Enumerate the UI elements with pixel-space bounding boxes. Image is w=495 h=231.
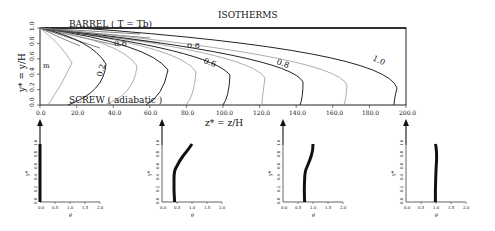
tick-label: 1.0 [28,21,35,31]
theta-label: θ [312,212,315,218]
profile-panel-1: 0.0 0.5 1.0 1.5 2.0 θ 0.0 0.2 0.4 0.6 0.… [24,126,104,218]
x-axis: 0.0 20.0 40.0 60.0 80.0 100.0 120.0 140.… [36,105,416,128]
tick-label: 0.0 [155,197,160,204]
tick-label: 0.8 [276,150,281,157]
theta-profile-curve [174,144,192,202]
tick-label: 0.2 [276,185,281,192]
tick-label: 0.8 [28,36,35,46]
tick-label: 1.0 [399,139,404,146]
tick-label: 0.4 [33,173,38,180]
tick-label: 0.4 [155,173,160,180]
tick-label: 1.0 [189,205,196,210]
tick-label: 20.0 [71,109,85,116]
x-axis-label: z* = z/H [205,118,243,128]
tick-label: 200.0 [399,109,416,116]
tick-label: 1.0 [155,139,160,146]
tick-label: 0.6 [155,162,160,169]
tick-label: 0.0 [36,109,46,116]
tick-label: 1.5 [448,205,455,210]
tick-label: 0.5 [174,205,181,210]
tick-label: 2.0 [463,205,470,210]
tick-label: 0.2 [399,185,404,192]
tick-label: 0.5 [52,205,59,210]
tick-label: 60.0 [144,109,158,116]
isotherm-plot: ISOTHERMS BARREL ( T = Tb) 0.2 [17,10,416,128]
tick-label: 0.6 [28,51,35,61]
tick-label: 0.4 [399,173,404,180]
theta-label: θ [435,212,438,218]
tick-label: 0.0 [281,205,288,210]
tick-label: 0.2 [33,185,38,192]
y-axis-label: y* = y/H [17,53,27,93]
tick-label: 0.0 [276,197,281,204]
isotherm-curves [40,28,397,105]
chart-title: ISOTHERMS [218,10,278,20]
contour-label-0.2: 0.2 [95,63,107,78]
tick-label: 0.4 [28,67,35,77]
profile-panel-4: 0.0 0.5 1.0 1.5 2.0 θ 0.0 0.2 0.4 0.6 0.… [390,126,470,218]
tick-label: 120.0 [253,109,270,116]
tick-label: 2.0 [340,205,347,210]
tick-label: 0.0 [28,97,35,107]
tick-label: 1.5 [82,205,89,210]
tick-label: 2.0 [97,205,104,210]
profile-panel-2: 0.0 0.5 1.0 1.5 2.0 θ 0.0 0.2 0.4 0.6 0.… [146,126,226,218]
tick-label: 0.2 [28,82,35,92]
contour-label-0.6b: 0.6 [202,56,217,69]
ystar-label: y* [146,170,153,177]
tick-label: 0.8 [33,150,38,157]
tick-label: 0.2 [155,185,160,192]
tick-label: 0.0 [160,205,167,210]
theta-label: θ [191,212,194,218]
m-label: m [43,62,50,70]
tick-label: 180.0 [362,109,379,116]
theta-label: θ [69,212,72,218]
tick-label: 0.5 [295,205,302,210]
contour-label-0.6a: 0.6 [114,39,127,48]
tick-label: 40.0 [108,109,122,116]
ystar-label: y* [24,170,31,177]
tick-label: 0.4 [276,173,281,180]
tick-label: 0.0 [33,197,38,204]
contour-label-0.8b: 0.8 [275,57,290,70]
tick-label: 2.0 [219,205,226,210]
tick-label: 0.0 [399,197,404,204]
tick-label: 80.0 [181,109,195,116]
tick-label: 1.0 [433,205,440,210]
tick-label: 1.0 [310,205,317,210]
theta-profile-curve [304,144,313,202]
tick-label: 0.8 [399,150,404,157]
tick-label: 1.0 [33,139,38,146]
tick-label: 100.0 [216,109,233,116]
tick-label: 0.6 [276,162,281,169]
tick-label: 1.5 [204,205,211,210]
tick-label: 1.5 [325,205,332,210]
tick-label: 160.0 [326,109,343,116]
ystar-label: y* [267,170,274,177]
tick-label: 140.0 [289,109,306,116]
tick-label: 0.5 [418,205,425,210]
tick-label: 1.0 [276,139,281,146]
tick-label: 1.0 [67,205,74,210]
tick-label: 0.0 [404,205,411,210]
contour-label-1.0: 1.0 [371,54,386,68]
contour-label-0.8a: 0.8 [187,41,200,50]
theta-profile-curve [435,144,436,202]
plot-frame [40,28,406,105]
figure: ISOTHERMS BARREL ( T = Tb) 0.2 [0,0,495,231]
profile-panel-3: 0.0 0.5 1.0 1.5 2.0 θ 0.0 0.2 0.4 0.6 0.… [267,126,347,218]
tick-label: 0.6 [399,162,404,169]
screw-label: SCREW ( adiabatic ) [69,95,162,105]
tick-label: 0.8 [155,150,160,157]
tick-label: 0.6 [33,162,38,169]
tick-label: 0.0 [38,205,45,210]
ystar-label: y* [390,170,397,177]
y-axis: 0.0 0.2 0.4 0.6 0.8 1.0 y* = y/H [17,21,40,107]
